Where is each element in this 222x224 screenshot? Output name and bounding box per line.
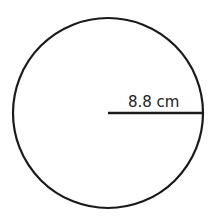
radius-label: 8.8 cm <box>128 93 179 111</box>
circle-diagram: 8.8 cm <box>0 0 222 224</box>
